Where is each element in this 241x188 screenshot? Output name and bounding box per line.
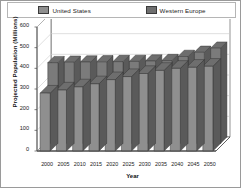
y-tick-label: 500: [20, 43, 29, 49]
x-tick-label: 2040: [171, 161, 183, 167]
legend-label-united-states: United States: [52, 7, 90, 14]
x-axis-tick-labels: 2050204520402035203020252020201520102005…: [31, 161, 234, 171]
legend-item-united-states: United States: [38, 6, 90, 14]
plot-area: 0100200300400500600: [31, 19, 234, 165]
y-tick-label: 600: [20, 22, 29, 28]
x-axis-title: Year: [31, 173, 234, 179]
y-tick-label: 100: [20, 125, 29, 131]
chart-3d-scene: [31, 19, 234, 165]
legend-swatch-western-europe: [146, 6, 157, 14]
chart-container: United States Western Europe Projected P…: [0, 0, 241, 188]
x-tick-label: 2050: [204, 161, 216, 167]
x-tick-label: 2020: [106, 161, 118, 167]
y-tick-label: 400: [20, 63, 29, 69]
x-tick-label: 2000: [41, 161, 53, 167]
y-tick-label: 300: [20, 84, 29, 90]
legend-label-western-europe: Western Europe: [160, 7, 206, 14]
chart-legend: United States Western Europe: [11, 3, 233, 17]
y-tick-label: 0: [26, 146, 29, 152]
x-tick-label: 2015: [90, 161, 102, 167]
x-tick-label: 2025: [123, 161, 135, 167]
x-tick-label: 2005: [57, 161, 69, 167]
x-tick-label: 2035: [155, 161, 167, 167]
legend-swatch-united-states: [38, 6, 49, 14]
x-tick-label: 2045: [188, 161, 200, 167]
x-tick-label: 2030: [139, 161, 151, 167]
y-tick-label: 200: [20, 105, 29, 111]
legend-item-western-europe: Western Europe: [146, 6, 206, 14]
x-tick-label: 2010: [74, 161, 86, 167]
y-axis-title: Projected Population (Millions): [12, 2, 18, 122]
